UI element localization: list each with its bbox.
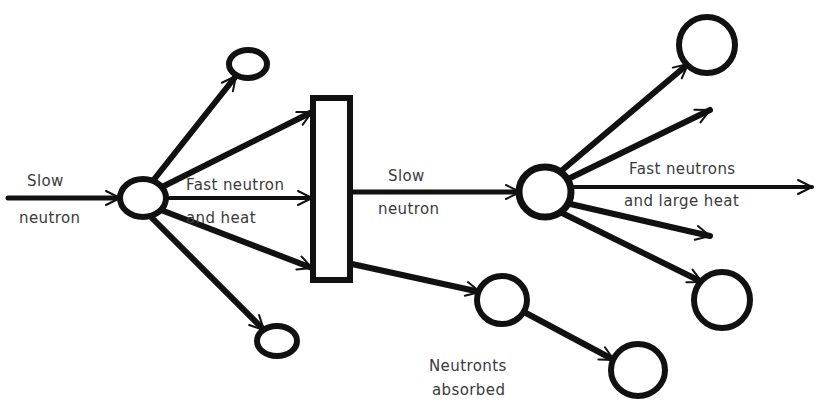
label-neutrons-absorbed-line2: absorbed (432, 381, 505, 399)
absorbed-neutron-ray-1 (352, 264, 480, 292)
label-fast-neutron-heat-line2: and heat (186, 209, 256, 227)
first-fissile-nucleus (120, 179, 166, 217)
label-fast-neutrons-large-heat-line1: Fast neutrons (629, 160, 736, 178)
label-slow-neutron-in-line2: neutron (19, 209, 80, 227)
label-fast-neutrons-large-heat-line2: and large heat (624, 192, 739, 210)
label-neutrons-absorbed-line1: Neutronts (429, 357, 507, 375)
diagram-canvas: Slow neutron Fast neutron and heat Slow … (0, 0, 823, 414)
ray-to-upper-right-neutron (560, 64, 688, 172)
ray-to-upper-left-neutron (152, 76, 236, 182)
second-fissile-nucleus (519, 167, 571, 217)
label-slow-neutron-mid-line2: neutron (378, 200, 439, 218)
label-fast-neutron-heat-line1: Fast neutron (186, 176, 284, 194)
label-slow-neutron-mid-line1: Slow (388, 167, 425, 185)
absorbed-neutron-second (611, 344, 665, 396)
moderator-barrier (313, 98, 350, 280)
ray-to-lower-right-neutron (560, 212, 702, 282)
barrier-layer (313, 98, 350, 280)
emitted-neutron-upper-left (229, 50, 267, 78)
emitted-neutron-lower-right (694, 272, 750, 328)
ray-to-lower-left-neutron (150, 216, 264, 330)
absorbed-neutron-ray-2 (524, 312, 614, 360)
nuclear-chain-reaction-diagram: Slow neutron Fast neutron and heat Slow … (0, 0, 823, 414)
label-slow-neutron-in-line1: Slow (27, 172, 64, 190)
absorbed-neutron-first (477, 276, 527, 324)
